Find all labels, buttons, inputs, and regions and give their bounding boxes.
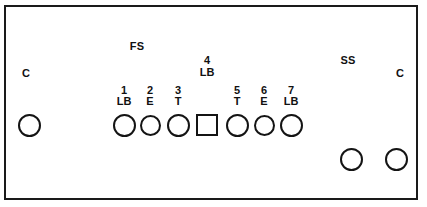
terminal-2-code: E	[146, 96, 153, 107]
terminal-4-number: 4	[204, 55, 210, 66]
terminal-3-code: T	[175, 96, 182, 107]
terminal-7-code: LB	[284, 96, 299, 107]
terminal-4-lb[interactable]	[196, 114, 218, 136]
terminal-1-lb[interactable]	[113, 114, 136, 137]
terminal-5-t[interactable]	[226, 114, 249, 137]
connector-panel-diagram: C FS SS C 4 LB 1 2 3 5 6 7 LB E T T E LB	[0, 0, 427, 207]
terminal-right-c[interactable]	[385, 148, 408, 171]
panel-frame	[4, 5, 418, 200]
terminal-ss[interactable]	[340, 148, 363, 171]
terminal-4-code: LB	[200, 67, 215, 78]
terminal-3-t[interactable]	[167, 114, 190, 137]
group-label-right-c: C	[396, 68, 404, 79]
terminal-6-code: E	[260, 96, 267, 107]
terminal-5-code: T	[234, 96, 241, 107]
terminal-left-c[interactable]	[18, 114, 41, 137]
terminal-1-code: LB	[117, 96, 132, 107]
group-label-left-c: C	[22, 68, 30, 79]
group-label-fs: FS	[130, 41, 144, 52]
terminal-7-lb[interactable]	[280, 114, 303, 137]
group-label-ss: SS	[340, 55, 355, 66]
terminal-6-e[interactable]	[254, 115, 275, 136]
terminal-2-e[interactable]	[140, 115, 161, 136]
